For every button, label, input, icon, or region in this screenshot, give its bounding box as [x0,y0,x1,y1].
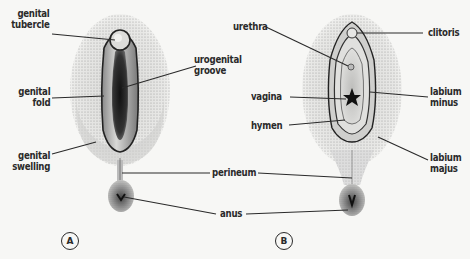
label-labium-minus: labium minus [430,86,461,108]
figure-a [70,14,170,212]
label-vagina: vagina [251,91,282,102]
label-genital-tubercle: genital tubercle [12,8,50,30]
label-perineum: perineum [212,167,256,178]
diagram-drawing [0,0,470,259]
panel-marker-b: B [275,232,293,250]
anatomy-diagram: genital tubercle genital fold genital sw… [0,0,470,259]
figure-b [302,14,402,216]
label-hymen: hymen [251,120,282,131]
panel-marker-a: A [61,232,79,250]
label-urogenital-groove: urogenital groove [194,54,242,76]
label-urethra: urethra [233,21,268,32]
label-clitoris: clitoris [428,27,459,38]
label-genital-fold: genital fold [18,86,50,108]
label-genital-swelling: genital swelling [12,150,50,172]
label-labium-majus: labium majus [430,152,461,174]
label-anus: anus [220,208,242,219]
